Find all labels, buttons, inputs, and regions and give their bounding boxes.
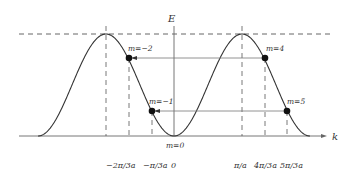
tick-4pi-3a: 4π/3a xyxy=(253,161,277,170)
label-m-5: m=5 xyxy=(287,97,305,106)
label-m-minus-1: m=−1 xyxy=(149,97,173,106)
point-m-4 xyxy=(262,55,269,62)
tick-zero: 0 xyxy=(171,161,176,170)
point-m-minus-1 xyxy=(149,108,156,115)
k-axis-arrowhead-icon xyxy=(321,134,327,138)
tick-pi-a: π/a xyxy=(233,161,247,170)
e-axis-label: E xyxy=(167,13,176,24)
tick-minus-pi-3a: −π/3a xyxy=(143,161,168,170)
k-axis-label: k xyxy=(332,131,338,142)
band-diagram: E k m=−2 m=4 m=−1 m=5 m=0 −2π/3a −π/3a 0… xyxy=(0,0,355,174)
point-m-5 xyxy=(284,108,291,115)
tick-5pi-3a: 5π/3a xyxy=(280,161,303,170)
label-m-4: m=4 xyxy=(266,44,284,53)
point-m-minus-2 xyxy=(126,55,133,62)
tick-minus-2pi-3a: −2π/3a xyxy=(106,161,136,170)
label-m-0: m=0 xyxy=(166,141,184,150)
label-m-minus-2: m=−2 xyxy=(128,44,153,53)
